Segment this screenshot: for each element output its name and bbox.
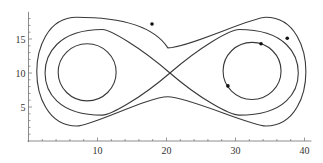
trajectory-point-marker [226, 84, 230, 88]
trajectory-point-marker [285, 37, 289, 41]
x-tick-label: 30 [231, 145, 241, 156]
x-tick-label: 10 [93, 145, 103, 156]
y-tick-label: 15 [16, 34, 26, 45]
y-tick-label: 10 [16, 68, 26, 79]
left-inner-orbit-curve [58, 44, 116, 101]
trajectory-point-marker [150, 22, 154, 26]
right-inner-orbit-curve [223, 42, 281, 99]
trajectory-point-marker [259, 42, 263, 46]
curves [37, 17, 306, 126]
x-tick-label: 20 [162, 145, 172, 156]
x-tick-label: 40 [300, 145, 310, 156]
phase-portrait-chart: 1020304051015 [0, 0, 323, 163]
y-tick-label: 5 [21, 102, 26, 113]
